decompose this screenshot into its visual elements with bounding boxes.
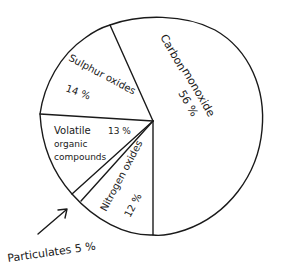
pie-chart: Carbon monoxide 56 % Sulphur oxides 14 %… — [0, 0, 281, 273]
slice-label-voc-3: compounds — [54, 152, 107, 162]
divider-sulphur-voc — [40, 114, 153, 121]
slice-value-voc: 13 % — [108, 126, 131, 136]
annotation-particulates: Particulates 5 % — [7, 240, 97, 265]
svg-text:12 %: 12 % — [122, 191, 144, 219]
svg-text:Carbon: Carbon — [157, 32, 188, 73]
slice-value-nitrogen-oxides: 12 % — [122, 191, 144, 219]
slice-value-sulphur-oxides: 14 % — [64, 83, 92, 102]
divider-carbon-sulphur — [110, 25, 153, 121]
svg-text:14 %: 14 % — [64, 83, 92, 102]
slice-label-voc-2: organic — [54, 139, 87, 149]
slice-label-voc-1: Volatile — [54, 125, 91, 136]
particulates-arrow-line — [38, 210, 66, 234]
svg-text:Particulates 5 %: Particulates 5 % — [7, 240, 97, 265]
